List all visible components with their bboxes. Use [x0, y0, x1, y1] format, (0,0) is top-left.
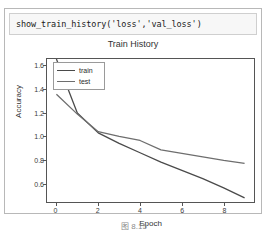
- legend-line-icon-train: [57, 70, 75, 71]
- x-tick-label: 4: [138, 207, 142, 214]
- legend-line-icon-test: [57, 81, 75, 82]
- legend-label-test: test: [79, 77, 90, 87]
- x-tick-label: 8: [222, 207, 226, 214]
- y-axis-ticks: 0.60.81.01.21.41.6: [19, 58, 44, 203]
- y-tick-mark: [43, 160, 46, 161]
- chart-legend: train test: [53, 62, 105, 90]
- figure-caption: 图 8.15: [0, 220, 268, 231]
- y-tick-label: 0.6: [24, 180, 44, 187]
- code-input-cell[interactable]: show_train_history('loss','val_loss'): [9, 13, 257, 35]
- y-tick-mark: [43, 184, 46, 185]
- y-tick-mark: [43, 89, 46, 90]
- y-tick-label: 1.2: [24, 109, 44, 116]
- legend-entry-test: test: [57, 76, 101, 87]
- y-tick-mark: [43, 113, 46, 114]
- x-tick-mark: [98, 203, 99, 206]
- code-output-cell: Train History Accuracy 0.60.81.01.21.41.…: [5, 37, 261, 213]
- y-tick-label: 1.0: [24, 133, 44, 140]
- x-tick-mark: [224, 203, 225, 206]
- y-tick-mark: [43, 65, 46, 66]
- notebook-cell-container: show_train_history('loss','val_loss') Tr…: [4, 8, 262, 214]
- x-tick-label: 2: [96, 207, 100, 214]
- x-tick-mark: [140, 203, 141, 206]
- legend-label-train: train: [79, 66, 93, 76]
- x-axis-ticks: 02468: [46, 205, 255, 219]
- code-text: show_train_history('loss','val_loss'): [10, 19, 202, 29]
- x-tick-label: 0: [54, 207, 58, 214]
- y-tick-mark: [43, 136, 46, 137]
- y-tick-label: 1.4: [24, 85, 44, 92]
- screenshot-root: show_train_history('loss','val_loss') Tr…: [0, 0, 268, 238]
- x-tick-mark: [56, 203, 57, 206]
- legend-entry-train: train: [57, 65, 101, 76]
- y-tick-label: 1.6: [24, 62, 44, 69]
- y-tick-label: 0.8: [24, 157, 44, 164]
- x-tick-label: 6: [180, 207, 184, 214]
- line-series-test: [56, 94, 244, 163]
- matplotlib-figure: Train History Accuracy 0.60.81.01.21.41.…: [5, 37, 261, 213]
- chart-title: Train History: [5, 39, 261, 49]
- x-tick-mark: [182, 203, 183, 206]
